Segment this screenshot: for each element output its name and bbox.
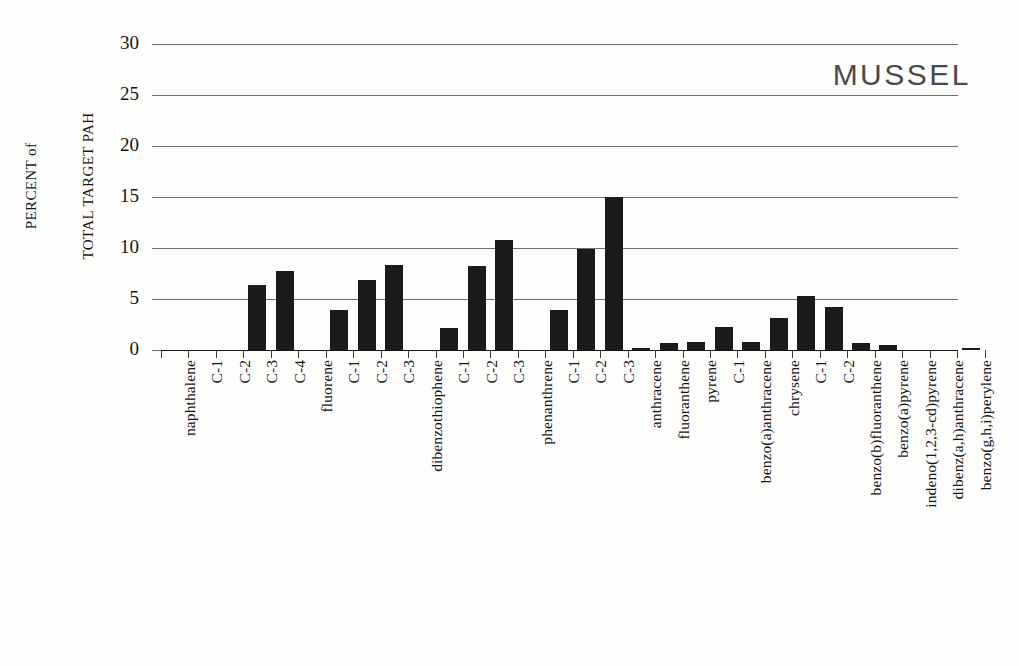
x-tick [216,350,217,358]
bar [330,310,348,350]
bar [468,266,486,350]
bar [605,197,623,350]
bar [385,265,403,350]
y-tick-25 [152,95,161,96]
x-tick [765,350,766,358]
x-tick [353,350,354,358]
x-axis-label: C-3 [263,360,281,384]
bar [715,327,733,350]
y-axis-title-line-2: TOTAL TARGET PAH [79,36,98,336]
x-tick [298,350,299,358]
x-axis-label: dibenz(a,h)anthracene [949,360,967,499]
x-axis-label: C-1 [208,360,226,384]
bar [852,343,870,350]
bar [742,342,760,350]
y-tick-label-25: 25 [105,83,139,105]
x-axis-label: benzo(a)anthracene [757,360,775,483]
y-tick-label-15: 15 [105,185,139,207]
x-axis-label: C-1 [455,360,473,384]
x-tick [243,350,244,358]
x-axis-label: C-1 [345,360,363,384]
x-axis-label: benzo(g,h,i)perylene [977,360,995,490]
x-tick [930,350,931,358]
x-axis-label: C-1 [730,360,748,384]
x-tick [600,350,601,358]
x-tick [188,350,189,358]
bar [770,318,788,350]
x-axis-label: C-2 [483,360,501,384]
y-tick-30 [152,44,161,45]
x-tick [902,350,903,358]
x-axis-label: C-2 [840,360,858,384]
x-axis-label: benzo(b)fluoranthene [867,360,885,495]
y-tick-label-20: 20 [105,134,139,156]
bar [495,240,513,350]
x-tick [408,350,409,358]
x-axis-label: fluorene [318,360,336,412]
y-tick-label-5: 5 [105,287,139,309]
x-axis-label: phenanthrene [538,360,556,445]
y-tick-label-30: 30 [105,32,139,54]
x-tick [490,350,491,358]
x-axis-tick-labels: naphthaleneC-1C-2C-3C-4fluoreneC-1C-2C-3… [161,360,958,660]
x-tick [655,350,656,358]
x-tick [436,350,437,358]
x-axis-label: C-2 [373,360,391,384]
bar [962,348,980,350]
x-axis-label: C-2 [592,360,610,384]
x-tick [271,350,272,358]
x-axis-line [161,350,958,351]
x-tick [985,350,986,358]
x-tick [957,350,958,358]
x-tick [683,350,684,358]
x-tick [326,350,327,358]
y-tick-10 [152,248,161,249]
bar [276,271,294,350]
y-tick-label-10: 10 [105,236,139,258]
x-axis-label: C-1 [565,360,583,384]
y-tick-15 [152,197,161,198]
x-tick [545,350,546,358]
chart-figure: PERCENT of TOTAL TARGET PAH 051015202530… [0,0,1019,666]
series-title: MUSSEL [833,58,971,92]
x-axis-label: C-3 [620,360,638,384]
y-tick-label-0: 0 [105,338,139,360]
y-tick-20 [152,146,161,147]
bar [687,342,705,350]
x-axis-label: indeno(1,2,3-cd)pyrene [922,360,940,508]
x-axis-label: chrysene [785,360,803,416]
bar [550,310,568,350]
y-tick-0 [152,350,161,351]
x-axis-label: anthracene [647,360,665,428]
x-tick [820,350,821,358]
x-axis-label: dibenzothiophene [428,360,446,472]
x-axis-label: pyrene [702,360,720,403]
x-tick [792,350,793,358]
x-tick [628,350,629,358]
bar [797,296,815,350]
x-axis-label: C-4 [291,360,309,384]
x-tick [518,350,519,358]
y-axis-title-line-1: PERCENT of [22,36,41,336]
x-axis-label: fluoranthene [675,360,693,440]
x-axis-label: C-1 [812,360,830,384]
bar [248,285,266,350]
x-tick [381,350,382,358]
x-axis-label: benzo(a)pyrene [894,360,912,458]
y-tick-5 [152,299,161,300]
x-axis-label: C-3 [400,360,418,384]
x-tick [710,350,711,358]
bar [358,280,376,350]
x-tick [737,350,738,358]
x-axis-label: naphthalene [181,360,199,436]
x-tick [463,350,464,358]
bar [440,328,458,350]
bar [577,249,595,350]
bar [660,343,678,350]
bar [825,307,843,350]
x-tick [573,350,574,358]
x-tick [875,350,876,358]
x-tick [161,350,162,358]
x-tick [847,350,848,358]
x-axis-label: C-2 [236,360,254,384]
